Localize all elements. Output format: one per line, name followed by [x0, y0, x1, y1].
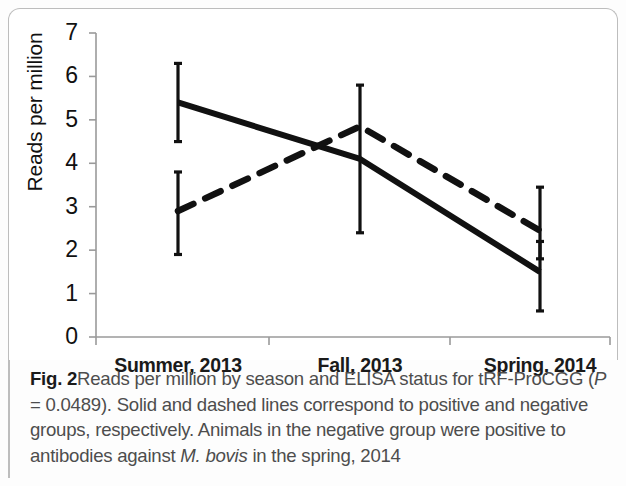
y-tick-label: 4 [44, 151, 78, 174]
caption-italic-p: P [594, 368, 606, 389]
caption-left-rule [8, 360, 10, 478]
caption-text-3: in the spring, 2014 [248, 445, 401, 466]
y-tick-label: 0 [44, 325, 78, 348]
y-tick-label: 6 [44, 64, 78, 87]
chart-svg [0, 0, 626, 360]
y-tick-label: 3 [44, 195, 78, 218]
figure-container: Reads per million 01234567 Summer, 2013F… [0, 0, 626, 486]
y-tick-label: 1 [44, 282, 78, 305]
figure-caption: Fig. 2Reads per million by season and EL… [30, 366, 610, 468]
caption-italic-mbovis: M. bovis [180, 445, 247, 466]
y-tick-label: 5 [44, 108, 78, 131]
caption-text-1: Reads per million by season and ELISA st… [77, 368, 594, 389]
chart-axes [89, 33, 610, 345]
chart-plot-area: Reads per million 01234567 Summer, 2013F… [0, 0, 626, 360]
figure-label: Fig. 2 [30, 368, 77, 389]
chart-series [174, 63, 544, 311]
y-tick-label: 2 [44, 238, 78, 261]
y-tick-label: 7 [44, 21, 78, 44]
